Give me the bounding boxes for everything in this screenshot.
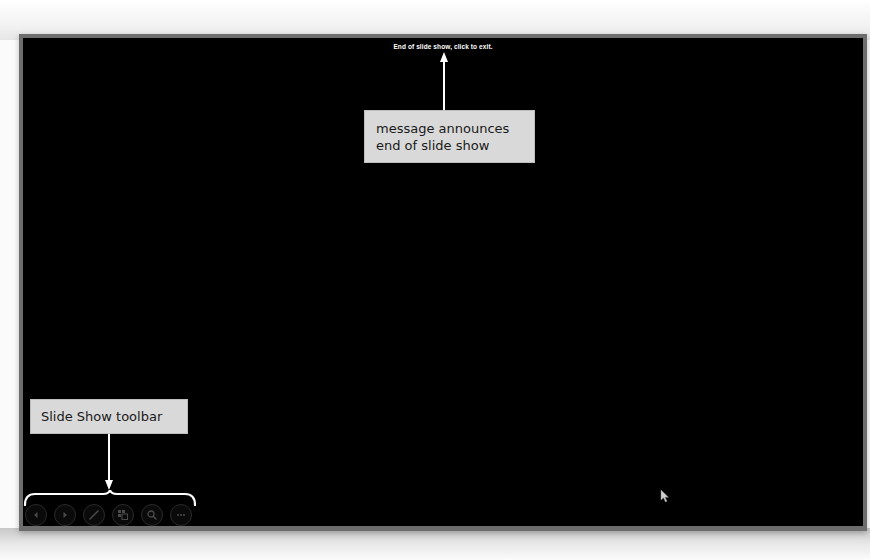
previous-slide-button[interactable] [25,504,47,526]
pen-icon [88,509,100,521]
callout-end-message: message announces end of slide show [364,110,535,163]
page-background-bottom [0,528,870,560]
callout-slideshow-toolbar: Slide Show toolbar [30,399,188,434]
slides-grid-icon [117,509,129,521]
pen-button[interactable] [83,504,105,526]
callout-arrow-end-message [443,60,445,110]
magnifier-icon [146,509,158,521]
next-slide-button[interactable] [54,504,76,526]
chevron-left-icon [31,510,41,520]
end-of-slideshow-message[interactable]: End of slide show, click to exit. [23,43,863,50]
see-all-slides-button[interactable] [112,504,134,526]
arrow-up-icon [440,52,448,62]
arrow-down-icon [105,480,113,490]
callout-arrow-toolbar [108,434,110,480]
slideshow-screen[interactable]: End of slide show, click to exit. messag… [23,38,863,526]
callout-toolbar-label: Slide Show toolbar [41,409,162,424]
more-options-button[interactable] [170,504,192,526]
mouse-pointer-icon [660,489,670,503]
callout-end-message-line1: message announces [376,120,534,137]
chevron-right-icon [60,510,70,520]
slideshow-toolbar [25,504,192,526]
zoom-button[interactable] [141,504,163,526]
slideshow-window-frame: End of slide show, click to exit. messag… [19,34,867,531]
callout-end-message-line2: end of slide show [376,137,534,154]
ellipsis-icon [175,509,187,521]
